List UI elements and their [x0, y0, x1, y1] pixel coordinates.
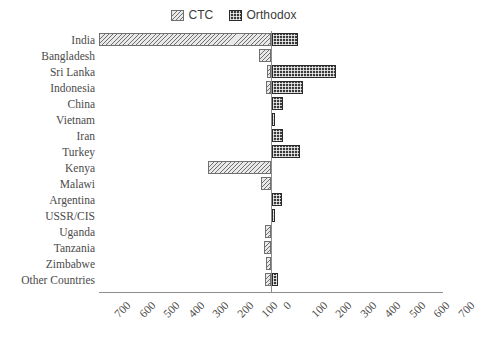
bar-row: [99, 257, 443, 270]
y-axis-label: Zimbabwe: [0, 258, 95, 270]
y-axis-label: Tanzania: [0, 242, 95, 254]
orthodox-swatch-icon: [229, 10, 242, 21]
y-axis-label: India: [0, 34, 95, 46]
x-axis-tick-label: 700: [112, 299, 133, 320]
bar-ctc: [265, 225, 271, 238]
bar-orthodox: [272, 65, 336, 78]
bar-ctc: [265, 273, 271, 286]
bar-ctc: [266, 81, 271, 94]
bar-orthodox: [272, 113, 275, 126]
bar-ctc: [264, 241, 271, 254]
y-axis-label: Iran: [0, 130, 95, 142]
x-axis-tick-label: 400: [382, 299, 403, 320]
bar-orthodox: [272, 273, 278, 286]
bar-row: [99, 81, 443, 94]
x-axis-tick-label: 200: [333, 299, 354, 320]
y-axis-label: China: [0, 98, 95, 110]
bar-row: [99, 273, 443, 286]
x-axis-tick-label: 700: [456, 299, 477, 320]
x-axis-tick-label: 300: [358, 299, 379, 320]
bar-row: [99, 161, 443, 174]
y-axis-label: USSR/CIS: [0, 210, 95, 222]
bar-row: [99, 241, 443, 254]
x-axis-tick-label: 400: [186, 299, 207, 320]
bar-orthodox: [272, 33, 298, 46]
y-axis-category-labels: IndiaBangladeshSri LankaIndonesiaChinaVi…: [0, 31, 95, 293]
bar-row: [99, 97, 443, 110]
bar-ctc: [99, 33, 271, 46]
x-axis-tick-label: 100: [259, 299, 280, 320]
x-axis-tick-label: 500: [161, 299, 182, 320]
y-axis-label: Sri Lanka: [0, 66, 95, 78]
bar-orthodox: [272, 81, 303, 94]
bar-row: [99, 33, 443, 46]
x-axis-tick-label: 600: [431, 299, 452, 320]
bar-row: [99, 129, 443, 142]
x-axis-tick-labels: 7006005004003002001000100200300400500600…: [99, 293, 443, 347]
y-axis-label: Malawi: [0, 178, 95, 190]
x-axis-tick-label: 500: [407, 299, 428, 320]
bar-row: [99, 177, 443, 190]
ctc-swatch-icon: [171, 10, 184, 21]
legend-entry-ctc: CTC: [171, 8, 213, 22]
legend-label-orthodox: Orthodox: [246, 8, 296, 22]
y-axis-label: Uganda: [0, 226, 95, 238]
y-axis-label: Indonesia: [0, 82, 95, 94]
x-axis-tick-label: 600: [137, 299, 158, 320]
bar-ctc: [266, 257, 271, 270]
bar-orthodox: [272, 209, 275, 222]
x-axis-tick-label: 200: [235, 299, 256, 320]
x-axis-tick-label: 300: [210, 299, 231, 320]
y-axis-label: Kenya: [0, 162, 95, 174]
y-axis-label: Vietnam: [0, 114, 95, 126]
bar-orthodox: [272, 145, 300, 158]
chart-legend: CTC Orthodox: [0, 8, 468, 22]
bar-orthodox: [272, 97, 283, 110]
bar-ctc: [259, 49, 271, 62]
y-axis-label: Argentina: [0, 194, 95, 206]
plot-area: [99, 31, 443, 293]
bar-orthodox: [272, 193, 282, 206]
legend-label-ctc: CTC: [188, 8, 213, 22]
bar-ctc: [208, 161, 271, 174]
bar-row: [99, 49, 443, 62]
bar-ctc: [261, 177, 271, 190]
bar-row: [99, 145, 443, 158]
bar-row: [99, 225, 443, 238]
x-axis-tick-label: 0: [281, 299, 294, 312]
bar-row: [99, 209, 443, 222]
bar-orthodox: [272, 129, 283, 142]
y-axis-label: Bangladesh: [0, 50, 95, 62]
bar-row: [99, 113, 443, 126]
y-axis-label: Other Countries: [0, 274, 95, 286]
legend-entry-orthodox: Orthodox: [229, 8, 296, 22]
x-axis-tick-label: 100: [309, 299, 330, 320]
y-axis-label: Turkey: [0, 146, 95, 158]
bar-row: [99, 65, 443, 78]
bar-ctc: [267, 65, 271, 78]
bar-row: [99, 193, 443, 206]
